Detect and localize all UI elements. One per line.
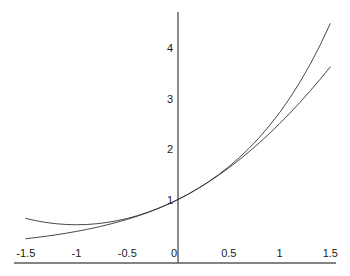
x-tick-label: -1.5	[16, 248, 35, 259]
y-tick-label: 3	[167, 93, 173, 104]
x-tick-label: 1	[276, 248, 282, 259]
x-tick-label: 1.5	[323, 248, 338, 259]
x-tick-label: -1	[72, 248, 82, 259]
plot-figure: -1.5-1-0.500.511.5 1234	[0, 0, 350, 276]
x-tick-label: 0.5	[221, 248, 236, 259]
y-tick-label: 4	[167, 43, 173, 54]
x-tick-label: 0	[171, 248, 177, 259]
x-tick-label: -0.5	[118, 248, 137, 259]
axes-group	[14, 12, 336, 263]
y-tick-label: 1	[167, 194, 173, 205]
plot-canvas	[0, 0, 350, 276]
y-tick-label: 2	[167, 144, 173, 155]
